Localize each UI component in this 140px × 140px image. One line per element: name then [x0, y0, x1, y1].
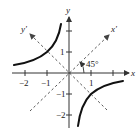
y-tick-label-neg1: −1 — [56, 89, 66, 99]
y-axis-label: y — [65, 5, 70, 15]
x-tick-label-neg2: −2 — [19, 78, 29, 88]
y-tick-label-1: 1 — [60, 47, 65, 57]
x-axis — [12, 70, 129, 76]
x-tick-label-neg1: −1 — [41, 78, 51, 88]
y-tick-label-neg2: −2 — [56, 110, 66, 120]
y-prime-label: y' — [20, 24, 28, 34]
rotated-hyperbola-figure: x y x' y' 45° −2 −1 1 1 −1 −2 — [0, 0, 140, 140]
rotation-angle-label: 45° — [86, 59, 99, 69]
x-axis-label: x — [130, 68, 135, 78]
x-prime-label: x' — [110, 24, 118, 34]
angle-arc — [80, 62, 84, 73]
x-tick-label-1: 1 — [89, 78, 94, 88]
